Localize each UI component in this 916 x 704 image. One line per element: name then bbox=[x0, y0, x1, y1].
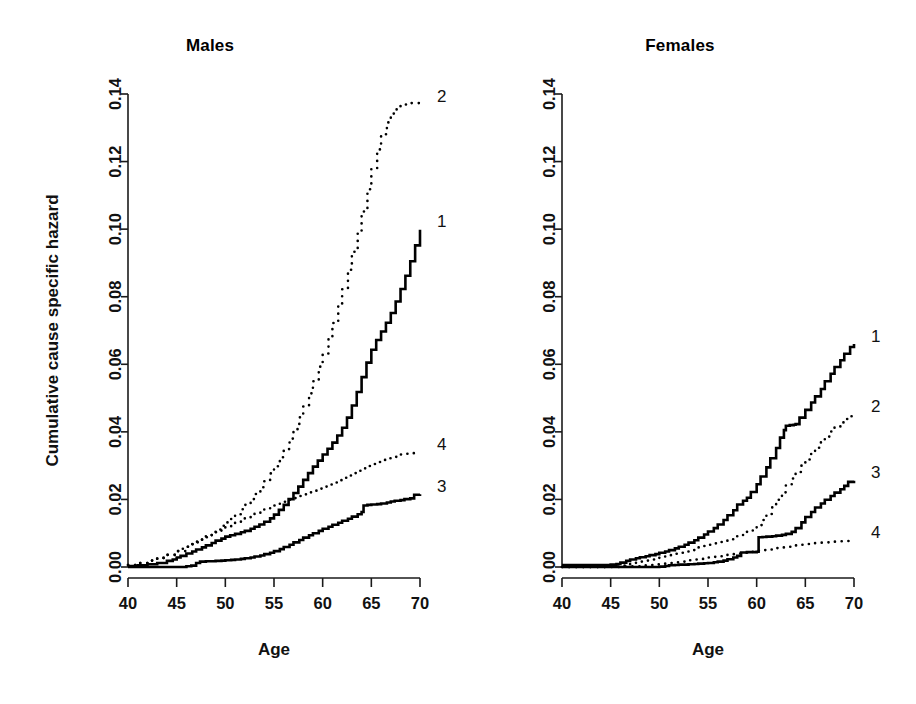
x-axis-title: Age bbox=[692, 640, 724, 659]
plot-area-males: 0.000.020.040.060.080.100.120.1440455055… bbox=[0, 0, 460, 704]
y-tick-label: 0.08 bbox=[540, 281, 558, 313]
y-axis-title: Cumulative cause specific hazard bbox=[43, 194, 62, 466]
y-tick-label: 0.14 bbox=[106, 77, 124, 110]
y-tick-label: 0.14 bbox=[540, 77, 558, 110]
x-axis-title: Age bbox=[258, 640, 290, 659]
x-tick-label: 55 bbox=[699, 594, 717, 612]
curve-end-label-1: 1 bbox=[871, 327, 880, 346]
x-tick-label: 50 bbox=[650, 594, 668, 612]
curve-end-label-2: 2 bbox=[871, 397, 880, 416]
x-tick-label: 40 bbox=[119, 594, 137, 612]
plot-area-females: 0.000.020.040.060.080.100.120.1440455055… bbox=[460, 0, 916, 704]
y-tick-label: 0.04 bbox=[106, 415, 124, 448]
curve-end-label-2: 2 bbox=[437, 87, 446, 106]
y-tick-label: 0.00 bbox=[540, 551, 558, 583]
curve-2 bbox=[128, 103, 420, 565]
y-tick-label: 0.12 bbox=[106, 146, 124, 178]
y-tick-label: 0.08 bbox=[106, 281, 124, 313]
x-tick-label: 55 bbox=[265, 594, 283, 612]
x-tick-label: 60 bbox=[747, 594, 765, 612]
x-tick-label: 50 bbox=[216, 594, 234, 612]
y-tick-label: 0.00 bbox=[106, 551, 124, 583]
x-tick-label: 40 bbox=[553, 594, 571, 612]
curve-3 bbox=[562, 481, 854, 567]
curve-end-label-4: 4 bbox=[437, 435, 446, 454]
x-tick-label: 65 bbox=[362, 594, 380, 612]
curve-end-label-3: 3 bbox=[437, 477, 446, 496]
curve-end-label-3: 3 bbox=[871, 463, 880, 482]
curve-1 bbox=[128, 230, 420, 566]
x-tick-label: 45 bbox=[167, 594, 185, 612]
x-tick-label: 70 bbox=[845, 594, 863, 612]
figure-cumulative-cause-specific-hazard: Males 0.000.020.040.060.080.100.120.1440… bbox=[0, 0, 916, 704]
y-tick-label: 0.02 bbox=[106, 483, 124, 515]
y-tick-label: 0.02 bbox=[540, 483, 558, 515]
curve-end-label-1: 1 bbox=[437, 212, 446, 231]
y-tick-label: 0.10 bbox=[540, 213, 558, 245]
x-tick-label: 65 bbox=[796, 594, 814, 612]
y-tick-label: 0.04 bbox=[540, 415, 558, 448]
y-tick-label: 0.10 bbox=[106, 213, 124, 245]
x-tick-label: 45 bbox=[601, 594, 619, 612]
y-tick-label: 0.12 bbox=[540, 146, 558, 178]
y-tick-label: 0.06 bbox=[106, 348, 124, 380]
x-tick-label: 70 bbox=[411, 594, 429, 612]
panel-females: Females 0.000.020.040.060.080.100.120.14… bbox=[460, 0, 916, 704]
y-tick-label: 0.06 bbox=[540, 348, 558, 380]
x-tick-label: 60 bbox=[313, 594, 331, 612]
panel-males: Males 0.000.020.040.060.080.100.120.1440… bbox=[0, 0, 460, 704]
curve-end-label-4: 4 bbox=[871, 523, 880, 542]
